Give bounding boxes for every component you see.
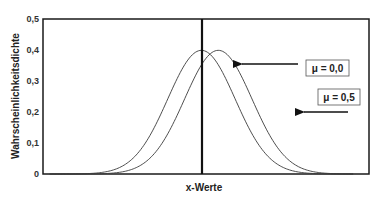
y-tick-label: 0 [34, 169, 39, 179]
annotation-text: μ = 0,5 [323, 92, 355, 103]
y-tick-label: 0,4 [26, 45, 39, 55]
x-axis-label: x-Werte [186, 182, 223, 193]
chart: 0 0,1 0,2 0,3 0,4 0,5 Wahrscheinlichkeit… [0, 0, 381, 197]
annotation-text: μ = 0,0 [312, 63, 344, 74]
y-axis-label: Wahrscheinlichkeitsdichte [10, 33, 21, 159]
annotation-mu-0: μ = 0,0 [242, 60, 349, 76]
y-tick-label: 0,5 [26, 14, 39, 24]
annotation-mu-0-5: μ = 0,5 [304, 89, 360, 112]
y-axis: 0 0,1 0,2 0,3 0,4 0,5 [26, 14, 39, 179]
y-tick-label: 0,2 [26, 107, 39, 117]
y-tick-label: 0,3 [26, 76, 39, 86]
y-tick-label: 0,1 [26, 138, 39, 148]
